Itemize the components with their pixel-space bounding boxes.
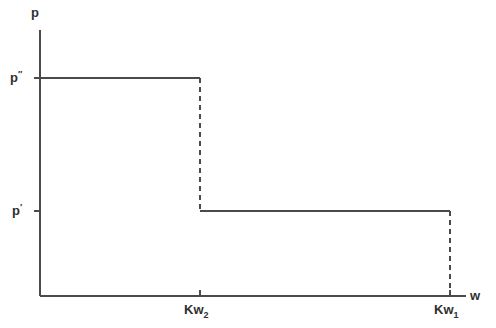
chart-figure: p p″ p′ Kw2 Kw1 w xyxy=(0,0,496,328)
y-axis-label: p xyxy=(31,6,39,19)
y-tick-label-p-double-prime-mark: ″ xyxy=(18,69,22,79)
x-tick-label-kw1-subscript: 1 xyxy=(454,310,459,320)
y-tick-label-p-double-prime: p″ xyxy=(10,70,22,84)
x-tick-label-kw2-base: Kw xyxy=(184,302,204,317)
x-tick-label-kw2: Kw2 xyxy=(184,303,209,320)
y-tick-label-p-double-prime-base: p xyxy=(10,70,18,85)
y-tick-label-p-prime: p′ xyxy=(12,203,22,217)
chart-canvas xyxy=(0,0,496,328)
y-tick-label-p-prime-base: p xyxy=(12,203,20,218)
x-axis-label: w xyxy=(470,289,480,302)
y-tick-label-p-prime-mark: ′ xyxy=(20,202,22,212)
x-tick-label-kw1: Kw1 xyxy=(434,303,459,320)
x-tick-label-kw1-base: Kw xyxy=(434,302,454,317)
x-tick-label-kw2-subscript: 2 xyxy=(204,310,209,320)
